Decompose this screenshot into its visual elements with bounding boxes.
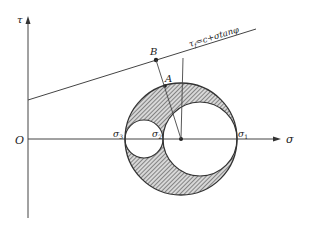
hatched-region (0, 0, 313, 228)
mohr-circle-diagram: τ σ O B A σ3 σ2 σ1 τf=c+σtanφ (0, 0, 313, 228)
tau-axis-label: τ (17, 14, 23, 25)
point-a-label: A (164, 73, 172, 84)
sigma-axis-label: σ (286, 133, 294, 146)
point-b-label: B (149, 46, 157, 57)
origin-label: O (15, 134, 24, 147)
